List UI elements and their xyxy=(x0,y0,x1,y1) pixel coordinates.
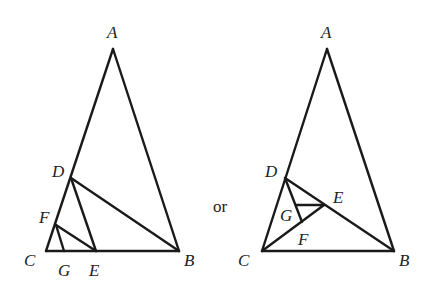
point-label-c: C xyxy=(24,251,36,270)
point-label-b: B xyxy=(184,251,195,270)
point-label-f: F xyxy=(38,208,50,227)
point-label-a: A xyxy=(320,23,332,42)
point-label-e: E xyxy=(88,261,100,280)
segment-ab xyxy=(327,49,394,251)
segment-ce xyxy=(262,205,324,251)
segment-ac xyxy=(262,49,327,251)
point-label-c: C xyxy=(238,251,250,270)
geometry-diagram: ADFCGEB or ADEGFCB xyxy=(0,0,429,284)
point-label-d: D xyxy=(51,162,65,181)
point-label-a: A xyxy=(106,23,118,42)
or-connector: or xyxy=(213,197,228,216)
segment-ab xyxy=(113,49,179,251)
right-triangle-figure: ADEGFCB xyxy=(238,23,410,270)
point-label-d: D xyxy=(264,162,278,181)
point-label-g: G xyxy=(280,206,292,225)
point-label-e: E xyxy=(332,188,344,207)
segment-de xyxy=(71,178,96,251)
point-label-f: F xyxy=(297,230,309,249)
segment-db xyxy=(71,178,179,251)
left-triangle-figure: ADFCGEB xyxy=(24,23,195,280)
point-label-b: B xyxy=(399,251,410,270)
segment-ac xyxy=(46,49,113,251)
point-label-g: G xyxy=(58,261,70,280)
